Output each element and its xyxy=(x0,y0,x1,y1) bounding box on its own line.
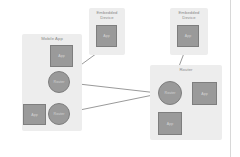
diagram-canvas: Mobile AppEmbedded DeviceEmbedded Device… xyxy=(0,0,240,157)
node-label-app-embedded-1: App xyxy=(103,34,109,38)
node-label-router-mobile-1: Router xyxy=(54,80,65,84)
node-label-router-main: Router xyxy=(165,91,176,95)
node-router-mobile-2[interactable]: Router xyxy=(48,103,70,125)
right-margin xyxy=(231,0,240,157)
node-label-app-mobile-left: App xyxy=(31,113,37,117)
group-label-mobile-app: Mobile App xyxy=(22,36,82,41)
node-label-router-mobile-2: Router xyxy=(54,112,65,116)
node-label-app-router-bottom: App xyxy=(167,122,173,126)
node-app-router-right[interactable]: App xyxy=(192,82,217,105)
node-router-mobile-1[interactable]: Router xyxy=(48,71,70,93)
edge-router-mobile-1-to-router-main xyxy=(70,83,158,93)
node-app-mobile-left[interactable]: App xyxy=(23,104,46,125)
node-app-router-bottom[interactable]: App xyxy=(158,112,182,135)
group-label-router-group: Router xyxy=(150,67,222,72)
group-label-embedded-device-top-center: Embedded Device xyxy=(89,10,125,20)
node-app-embedded-1[interactable]: App xyxy=(96,25,117,47)
group-label-embedded-device-top-right: Embedded Device xyxy=(170,10,208,20)
node-app-embedded-2[interactable]: App xyxy=(177,25,199,47)
edge-router-mobile-2-to-router-main xyxy=(70,94,158,112)
node-router-main[interactable]: Router xyxy=(158,81,182,105)
node-label-app-mobile-top: App xyxy=(58,54,64,58)
node-label-app-router-right: App xyxy=(201,92,207,96)
node-app-mobile-top[interactable]: App xyxy=(50,45,73,67)
node-label-app-embedded-2: App xyxy=(185,34,191,38)
